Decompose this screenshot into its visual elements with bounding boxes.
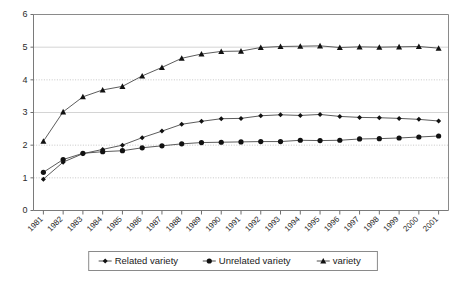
data-point [219, 140, 224, 145]
data-point [41, 170, 46, 175]
data-point [377, 136, 382, 141]
data-point [159, 143, 164, 148]
data-point [298, 138, 303, 143]
data-point [357, 136, 362, 141]
y-tick-label: 0 [22, 205, 27, 215]
data-point [100, 149, 105, 154]
legend-label: variety [333, 255, 361, 266]
data-point [337, 138, 342, 143]
legend-label: Unrelated variety [219, 255, 291, 266]
data-point [61, 157, 66, 162]
y-tick-label: 5 [22, 42, 27, 52]
data-point [416, 134, 421, 139]
chart-background [0, 0, 466, 285]
chart-legend: Related varietyUnrelated varietyvariety [89, 252, 378, 271]
data-point [278, 139, 283, 144]
data-point [436, 133, 441, 138]
line-chart: 0123456 19811982198319841985198619871988… [0, 0, 466, 285]
legend-marker-circle-icon [207, 258, 212, 263]
y-tick-label: 1 [22, 173, 27, 183]
legend-label: Related variety [115, 255, 179, 266]
data-point [199, 140, 204, 145]
y-tick-label: 2 [22, 140, 27, 150]
chart-canvas: 0123456 19811982198319841985198619871988… [0, 0, 466, 285]
y-tick-label: 6 [22, 9, 27, 19]
data-point [120, 148, 125, 153]
data-point [238, 139, 243, 144]
data-point [317, 138, 322, 143]
data-point [80, 151, 85, 156]
data-point [179, 141, 184, 146]
data-point [258, 139, 263, 144]
data-point [397, 135, 402, 140]
y-tick-label: 4 [22, 75, 27, 85]
y-tick-label: 3 [22, 107, 27, 117]
data-point [140, 145, 145, 150]
